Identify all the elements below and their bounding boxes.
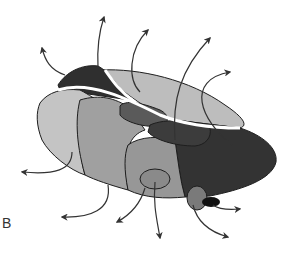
- arrow-2: [98, 17, 104, 68]
- dark-foot: [202, 197, 220, 207]
- organ-diagram: [0, 0, 285, 253]
- arrow-1: [42, 48, 65, 75]
- small-lobe: [187, 186, 207, 210]
- panel-label: B: [2, 215, 11, 231]
- arrow-7: [62, 185, 108, 217]
